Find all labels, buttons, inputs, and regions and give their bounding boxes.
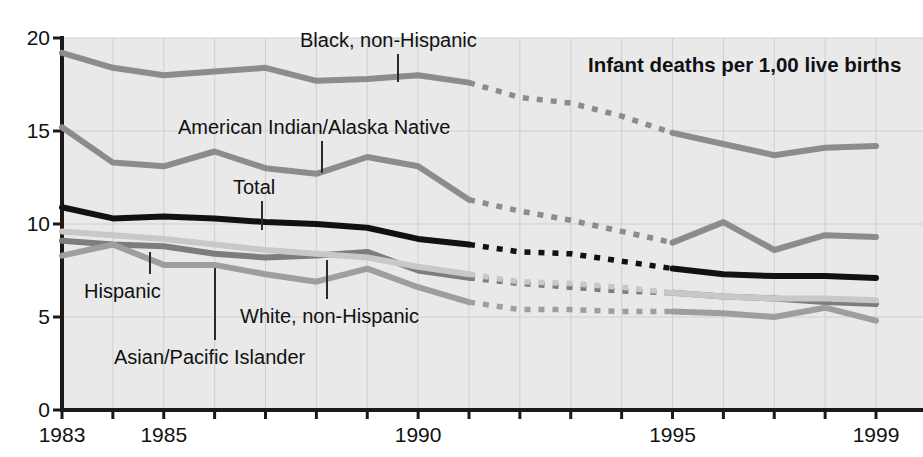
- series-label-white-non-hispanic: White, non-Hispanic: [240, 306, 419, 327]
- x-axis-tick-label: 1990: [373, 424, 463, 445]
- y-axis-tick-label: 20: [4, 27, 50, 48]
- y-axis-tick-label: 5: [4, 306, 50, 327]
- x-axis-tick-label: 1985: [119, 424, 209, 445]
- x-axis-tick-label: 1999: [831, 424, 921, 445]
- x-axis-tick-label: 1995: [628, 424, 718, 445]
- series-label-hispanic: Hispanic: [84, 281, 161, 302]
- y-axis-tick-label: 10: [4, 213, 50, 234]
- x-axis-tick-label: 1983: [17, 424, 107, 445]
- series-label-black-non-hispanic: Black, non-Hispanic: [300, 30, 477, 51]
- y-axis-tick-label: 15: [4, 120, 50, 141]
- series-label-american-indian-alaska-native: American Indian/Alaska Native: [178, 117, 450, 138]
- chart-title: Infant deaths per 1,00 live births: [588, 54, 901, 76]
- infant-mortality-chart: 05101520 19831985199019951999 Black, non…: [0, 0, 923, 457]
- series-label-asian-pacific-islander: Asian/Pacific Islander: [114, 347, 305, 368]
- series-label-total: Total: [233, 177, 275, 198]
- y-axis-tick-label: 0: [4, 399, 50, 420]
